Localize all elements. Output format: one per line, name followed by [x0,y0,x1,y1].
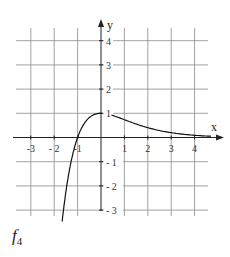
x-axis-label: x [211,120,217,134]
y-tick-label: 2 [106,84,111,95]
x-axis-arrow-icon [216,135,224,141]
y-tick-label: - 2 [106,181,117,192]
function-curve [112,115,212,136]
y-tick-label: 3 [106,60,111,71]
y-tick-label: - 3 [106,205,117,216]
x-tick-label: 3 [169,143,174,154]
function-plot: xy-3- 2-112344321- 1- 2- 3 [0,0,230,257]
x-tick-label: 2 [145,143,150,154]
y-tick-label: - 1 [106,157,117,168]
x-tick-label: 4 [192,143,197,154]
y-axis-label: y [107,18,113,32]
x-tick-label: - 2 [49,143,60,154]
y-tick-label: 4 [106,36,111,47]
y-axis-arrow-icon [98,19,104,27]
x-tick-label: 1 [122,143,127,154]
x-tick-label: -3 [27,143,35,154]
figure-label: f4 [12,226,22,247]
y-tick-label: 1 [106,108,111,119]
function-curve [62,113,102,221]
